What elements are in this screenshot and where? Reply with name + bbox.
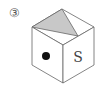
dot-symbol <box>42 52 50 60</box>
s-letter: S <box>73 49 83 65</box>
cube-diagram: S <box>0 0 98 90</box>
